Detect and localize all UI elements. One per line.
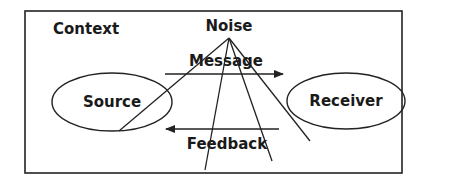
receiver-label: Receiver <box>309 92 383 110</box>
source-label: Source <box>83 93 141 111</box>
noise-line-4 <box>229 38 310 141</box>
noise-label: Noise <box>205 17 252 35</box>
receiver-node: Receiver <box>287 73 405 129</box>
noise-line-1 <box>119 38 229 131</box>
communication-diagram: Context Noise Source Receiver Message Fe… <box>0 0 450 192</box>
feedback-label: Feedback <box>187 135 268 153</box>
context-label: Context <box>53 20 119 38</box>
